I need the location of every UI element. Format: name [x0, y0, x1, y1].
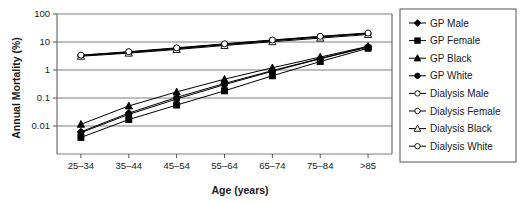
x-tick-label: 25–34: [68, 160, 94, 171]
x-tick-label: 45–54: [163, 160, 189, 171]
data-point-marker: [317, 56, 323, 62]
data-point-marker: [222, 88, 228, 94]
data-point-marker: [222, 82, 228, 88]
y-tick-label: 0.01: [32, 120, 51, 131]
y-tick-label: 10: [39, 36, 50, 47]
legend-item-label: GP Male: [430, 18, 469, 29]
legend-box: [400, 9, 516, 162]
legend-item-label: GP Female: [430, 35, 481, 46]
mortality-log-line-chart: 1001010.10.01 25–3435–4445–5455–6465–747…: [0, 0, 522, 203]
legend-item-label: Dialysis Female: [430, 106, 501, 117]
legend-item-label: Dialysis Male: [430, 88, 489, 99]
data-point-marker: [415, 91, 420, 96]
data-point-marker: [365, 44, 371, 50]
y-tick-label: 0.1: [37, 92, 50, 103]
x-tick-label: 55–64: [211, 160, 237, 171]
x-tick-label: 35–44: [116, 160, 142, 171]
data-point-marker: [269, 37, 275, 43]
y-axis-title: Annual Mortality (%): [10, 37, 22, 139]
x-tick-label: >85: [360, 160, 376, 171]
legend-item-label: GP White: [430, 70, 473, 81]
data-point-marker: [415, 73, 420, 78]
data-point-marker: [317, 33, 323, 39]
data-point-marker: [365, 30, 371, 36]
data-point-marker: [415, 144, 420, 149]
y-tick-label: 100: [34, 8, 50, 19]
data-point-marker: [78, 130, 84, 136]
legend-item-label: Dialysis White: [430, 141, 493, 152]
data-point-marker: [222, 41, 228, 47]
data-point-marker: [415, 108, 420, 113]
chart-figure: 1001010.10.01 25–3435–4445–5455–6465–747…: [0, 0, 522, 203]
legend-item-label: GP Black: [430, 53, 472, 64]
y-tick-label: 1: [45, 64, 50, 75]
data-point-marker: [269, 68, 275, 74]
legend-item-label: Dialysis Black: [430, 123, 493, 134]
data-point-marker: [78, 52, 84, 58]
data-point-marker: [415, 38, 420, 43]
data-point-marker: [126, 49, 132, 55]
data-point-marker: [126, 111, 132, 117]
x-tick-label: 75–84: [307, 160, 333, 171]
data-point-marker: [174, 45, 180, 51]
x-tick-label: 65–74: [259, 160, 285, 171]
data-point-marker: [174, 96, 180, 102]
x-axis-title: Age (years): [211, 184, 268, 196]
data-point-marker: [174, 102, 180, 108]
